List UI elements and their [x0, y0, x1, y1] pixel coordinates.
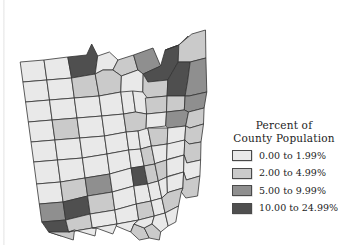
- county-area: [68, 44, 98, 78]
- county-area: [34, 160, 61, 184]
- county-area: [95, 70, 121, 96]
- legend-row: 10.00 to 24.99%: [228, 200, 338, 218]
- county-area: [50, 98, 78, 120]
- legend-swatch-class-4: [232, 203, 252, 214]
- legend-row: 5.00 to 9.99%: [228, 182, 338, 200]
- legend-title-line-2: County Population: [230, 132, 338, 145]
- legend-row: 0.00 to 1.99%: [228, 147, 338, 165]
- legend-label-class-1: 0.00 to 1.99%: [259, 151, 326, 161]
- legend-row: 2.00 to 4.99%: [228, 165, 338, 183]
- county-area: [166, 110, 189, 128]
- county-area: [31, 140, 58, 162]
- county-area: [47, 78, 75, 100]
- legend-swatch-class-1: [232, 150, 252, 161]
- legend-entries: 0.00 to 1.99% 2.00 to 4.99% 5.00 to 9.99…: [228, 147, 338, 217]
- county-area: [77, 116, 105, 138]
- county-area: [26, 100, 52, 122]
- county-area: [52, 118, 80, 140]
- legend-label-class-3: 5.00 to 9.99%: [259, 186, 326, 196]
- county-area: [124, 112, 147, 132]
- county-polygons: [20, 30, 207, 240]
- county-area: [167, 96, 186, 112]
- county-area: [148, 128, 168, 146]
- county-area: [184, 140, 201, 163]
- county-area: [72, 74, 100, 98]
- county-area: [20, 60, 47, 82]
- legend-label-class-2: 2.00 to 4.99%: [259, 168, 326, 178]
- legend-title: Percent of County Population: [230, 119, 338, 144]
- county-area: [178, 30, 206, 62]
- county-area: [145, 96, 167, 114]
- county-area: [28, 120, 55, 142]
- legend-label-class-4: 10.00 to 24.99%: [259, 203, 338, 213]
- ohio-county-map: [0, 0, 230, 245]
- county-area: [99, 92, 124, 116]
- county-area: [39, 202, 65, 222]
- county-area: [37, 182, 64, 204]
- county-area: [146, 112, 167, 130]
- county-area: [55, 138, 83, 160]
- county-area: [23, 80, 50, 102]
- county-area: [44, 57, 72, 80]
- choropleth-figure: Percent of County Population 0.00 to 1.9…: [0, 0, 338, 245]
- legend-swatch-class-3: [232, 185, 252, 196]
- map-legend: Percent of County Population 0.00 to 1.9…: [228, 119, 338, 217]
- legend-swatch-class-2: [232, 168, 252, 179]
- county-area: [185, 124, 204, 144]
- legend-title-line-1: Percent of: [230, 119, 338, 132]
- county-area: [74, 96, 102, 118]
